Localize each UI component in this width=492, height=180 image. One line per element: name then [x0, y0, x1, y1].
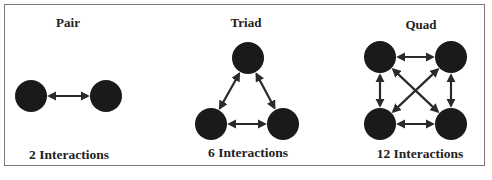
triad-interaction-count: 6 Interactions	[208, 145, 288, 161]
quad-interaction-count: 12 Interactions	[377, 146, 464, 162]
pair-person-node	[90, 80, 122, 112]
triad-title: Triad	[231, 15, 262, 31]
quad-title: Quad	[405, 17, 436, 33]
triad-person-node	[195, 108, 227, 140]
triad-person-node	[267, 108, 299, 140]
triad-interaction-arrow	[220, 74, 239, 109]
pair-interaction-count: 2 Interactions	[29, 147, 109, 163]
pair-person-node	[15, 80, 47, 112]
pair-title: Pair	[56, 15, 80, 31]
quad-person-node	[364, 108, 396, 140]
triad-person-node	[232, 42, 264, 74]
quad-person-node	[435, 108, 467, 140]
quad-person-node	[364, 41, 396, 73]
quad-person-node	[435, 41, 467, 73]
person-nodes	[15, 41, 467, 140]
triad-interaction-arrow	[256, 74, 274, 108]
